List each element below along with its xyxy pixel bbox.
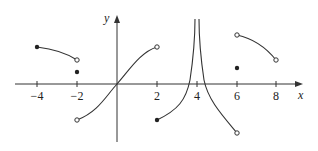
tick-label: −2 (71, 89, 84, 103)
x-axis-label: x (297, 88, 304, 102)
tick-label: 4 (194, 89, 200, 103)
open-point (274, 58, 278, 62)
open-point (235, 131, 239, 135)
y-axis-arrow-icon (114, 15, 120, 23)
tick-label: 2 (154, 89, 160, 103)
closed-point (75, 70, 79, 74)
function-graph: −4 −2 2 4 6 8 x y (0, 0, 318, 151)
curves (37, 19, 276, 133)
x-axis-arrow-icon (295, 81, 303, 87)
closed-point (35, 45, 39, 49)
curve-piece-3 (157, 19, 195, 120)
closed-point (235, 66, 239, 70)
closed-point (155, 118, 159, 122)
tick-label: 6 (234, 89, 240, 103)
open-point (235, 33, 239, 37)
y-axis-label: y (103, 11, 110, 25)
open-point (155, 45, 159, 49)
tick-label: −4 (31, 89, 44, 103)
graph-canvas: −4 −2 2 4 6 8 x y (0, 0, 318, 151)
tick-label: 8 (273, 89, 279, 103)
curve-piece-1 (37, 47, 77, 60)
curve-piece-4 (199, 19, 237, 133)
open-point (75, 58, 79, 62)
curve-piece-5 (237, 35, 276, 60)
open-point (75, 118, 79, 122)
